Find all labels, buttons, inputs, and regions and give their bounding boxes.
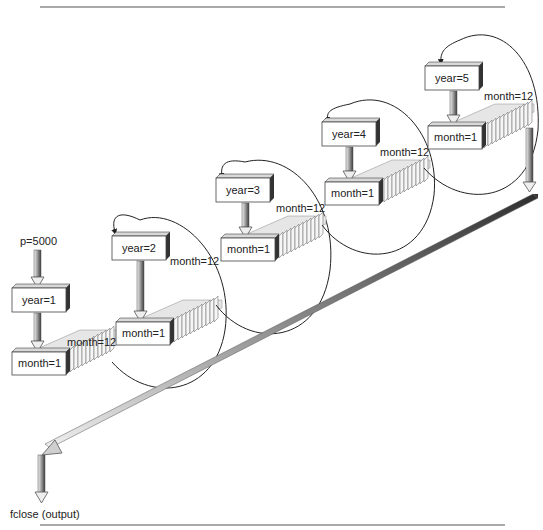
month-box: month=1 — [221, 234, 279, 261]
year-label: year=4 — [332, 128, 366, 140]
first-month-label: month=1 — [18, 357, 61, 369]
year-label: year=5 — [435, 72, 469, 84]
month-box: month=1 — [116, 318, 174, 345]
year-box: year=4 — [322, 118, 380, 146]
year-label: year=2 — [122, 242, 156, 254]
last-month-label: month=12 — [484, 90, 533, 102]
loop-back-arrow — [441, 40, 460, 62]
nested-loop-diagram: p=5000 month=12 year=1 — [0, 0, 543, 530]
last-month-label: month=12 — [170, 255, 219, 267]
year-box: year=5 — [425, 62, 483, 90]
year-group-5: month=12 year=5 month=1 — [425, 40, 534, 149]
fclose-arrow — [35, 455, 48, 503]
year-box: year=1 — [12, 284, 70, 312]
year-to-month-arrow — [31, 313, 44, 352]
year-label: year=3 — [226, 184, 260, 196]
first-month-label: month=1 — [331, 187, 374, 199]
month-box: month=1 — [325, 178, 383, 205]
first-month-label: month=1 — [122, 327, 165, 339]
year-to-month-arrow — [134, 261, 147, 322]
month-box: month=1 — [428, 122, 486, 149]
loop-back-arrow — [114, 215, 140, 232]
loop-back-arrow — [328, 104, 350, 120]
end-label: fclose (output) — [10, 508, 80, 520]
diagram-svg: p=5000 month=12 year=1 — [0, 0, 543, 530]
start-arrow — [31, 250, 44, 288]
last-month-label: month=12 — [276, 202, 325, 214]
year-box: year=2 — [112, 232, 170, 260]
year-box: year=3 — [216, 174, 274, 202]
month-box: month=1 — [12, 348, 70, 375]
start-label: p=5000 — [20, 235, 57, 247]
first-month-label: month=1 — [434, 131, 477, 143]
exit-vertical-arrow — [523, 128, 536, 192]
last-month-label: month=12 — [67, 336, 116, 348]
last-month-label: month=12 — [380, 146, 429, 158]
year-label: year=1 — [22, 294, 56, 306]
first-month-label: month=1 — [227, 243, 270, 255]
